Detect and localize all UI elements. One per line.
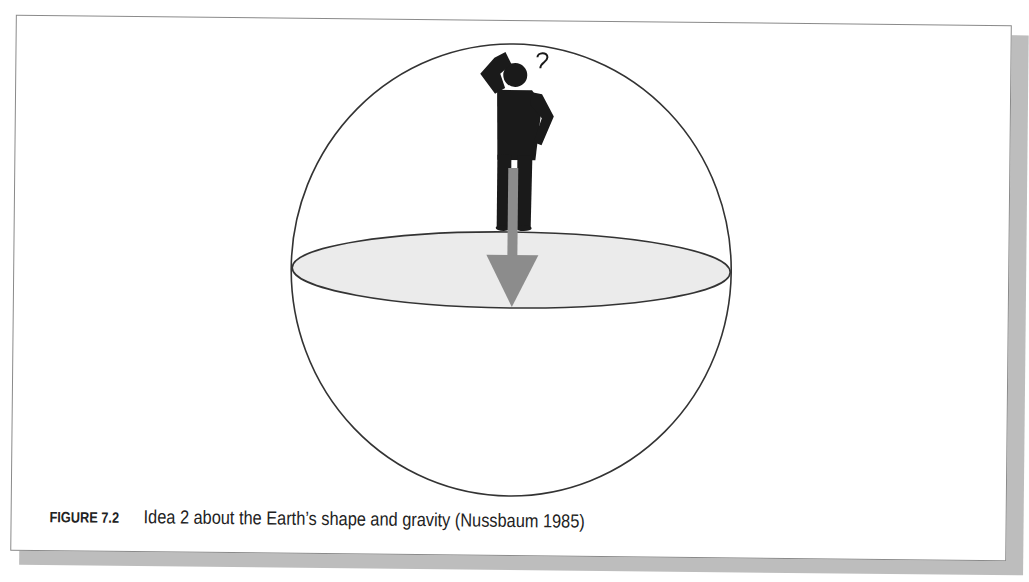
figure-label: FIGURE 7.2: [50, 508, 120, 526]
question-mark-icon: [537, 53, 547, 68]
figure-page: FIGURE 7.2 Idea 2 about the Earth’s shap…: [0, 0, 1029, 582]
earth-gravity-diagram: [0, 0, 1029, 582]
figure-caption-text: Idea 2 about the Earth’s shape and gravi…: [144, 506, 585, 533]
